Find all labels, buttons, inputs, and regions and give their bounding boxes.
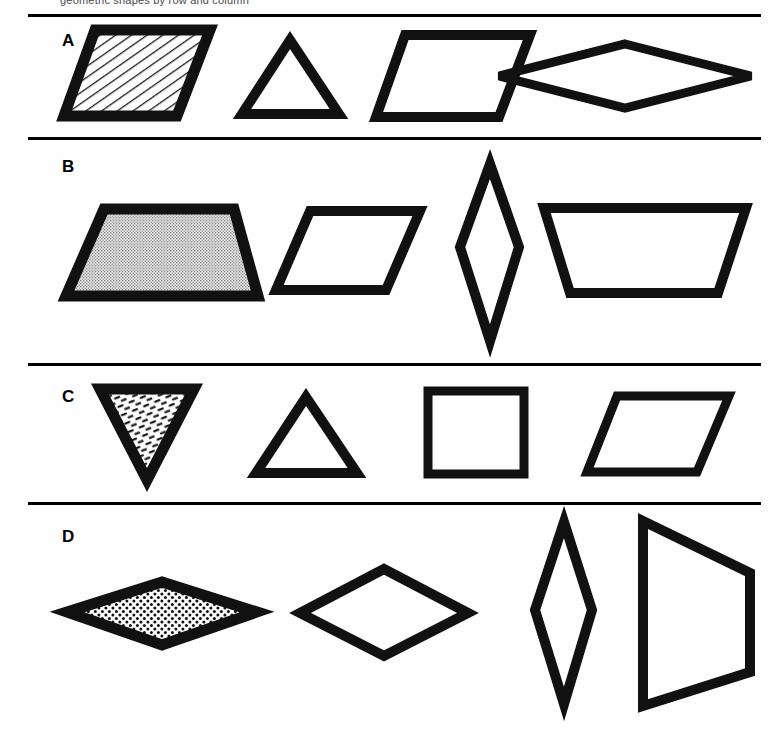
shape-d2-rhombus-d2: diamond / rhombus, unfilled: [300, 569, 468, 656]
shape-fill-dots: [67, 582, 257, 645]
row-separator-rule: [28, 14, 761, 17]
shape-d1-rhombus-wide-dotted: wide flat rhombus filled with regular do…: [67, 582, 257, 645]
shapes-canvas: right-leaning parallelogram with diagona…: [0, 0, 769, 733]
shape-outline: [428, 391, 524, 474]
shape-b2-parallelogram-right-lean-b: right-leaning parallelogram, unfilled: [276, 211, 420, 290]
shape-outline: [460, 164, 519, 341]
shape-a2-triangle-upright: upright isosceles triangle, unfilled: [242, 40, 339, 114]
shape-fill-dashes: [100, 389, 194, 480]
shape-outline: [544, 208, 746, 293]
shape-b3-rhombus-tall-narrow-b: tall narrow vertical rhombus, unfilled: [460, 164, 519, 341]
shape-c3-square-c: square, unfilled: [428, 391, 524, 474]
shape-d4-trapezoid-vertical-d: trapezoid rotated, vertical left edge wi…: [643, 521, 750, 706]
shape-c4-parallelogram-c: right-leaning parallelogram, unfilled: [587, 396, 729, 472]
row-label-b: B: [62, 158, 74, 175]
shape-outline: [587, 396, 729, 472]
shape-figure: geometric shapes by row and column: [0, 0, 769, 733]
row-label-d: D: [62, 528, 74, 545]
row-label-a: A: [62, 32, 74, 49]
shape-b4-trapezoid-inverted: trapezoid with wide top and narrow botto…: [544, 208, 746, 293]
shape-outline: [300, 569, 468, 656]
shape-a4-rhombus-wide-flat: wide flat rhombus (horizontal diamond), …: [499, 44, 751, 108]
shape-outline: [499, 44, 751, 108]
row-separator-rule: [28, 363, 761, 366]
shape-c2-triangle-upright-c: upright triangle, unfilled: [256, 397, 357, 473]
row-separator-rule: [28, 137, 761, 140]
shape-outline: [535, 522, 592, 704]
row-label-c: C: [62, 388, 74, 405]
shape-a1-parallelogram-hatched: right-leaning parallelogram with diagona…: [64, 30, 210, 116]
shape-d3-rhombus-tall-narrow-d: tall narrow vertical rhombus, unfilled: [535, 522, 592, 704]
row-separator-rule: [28, 502, 761, 505]
shape-outline: [242, 40, 339, 114]
shape-c1-triangle-inverted-dashed-fill: downward-pointing triangle filled with s…: [100, 389, 194, 480]
shape-b1-trapezoid-stippled: trapezoid with narrow top, filled with f…: [66, 209, 258, 296]
shape-outline: [256, 397, 357, 473]
shape-outline: [643, 521, 750, 706]
shape-outline: [276, 211, 420, 290]
